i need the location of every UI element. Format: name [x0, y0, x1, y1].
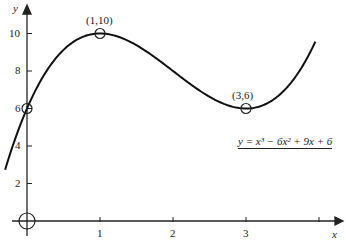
x-tick-label: 2	[170, 228, 176, 239]
x-axis-label: x	[332, 229, 337, 240]
x-axis-arrow-icon	[335, 217, 343, 225]
point-label: (3,6)	[232, 90, 253, 101]
equation-label: y = x³ − 6x² + 9x + 6	[238, 135, 332, 149]
y-tick-label: 8	[15, 65, 21, 76]
y-tick-label: 2	[15, 178, 21, 189]
y-tick-label: 6	[15, 103, 21, 114]
y-axis-arrow-icon	[23, 5, 31, 14]
y-tick-label: 4	[15, 140, 21, 151]
x-tick-label: 1	[97, 228, 103, 239]
y-tick-label: 10	[9, 28, 20, 39]
chart: 123246810xy(1,10)(3,6) y = x³ − 6x² + 9x…	[0, 0, 346, 248]
curve	[5, 34, 315, 170]
plot-area	[0, 0, 346, 248]
y-axis-label: y	[13, 3, 18, 14]
point-label: (1,10)	[86, 15, 113, 26]
x-tick-label: 3	[243, 228, 249, 239]
